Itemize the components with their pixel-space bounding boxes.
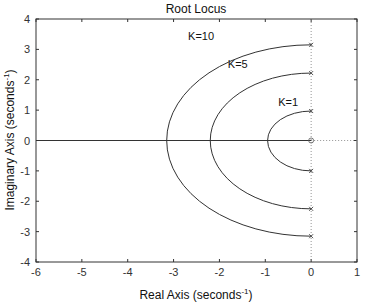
- x-tick-label: -4: [123, 266, 133, 278]
- gain-label: K=10: [188, 30, 214, 42]
- x-tick-label: -1: [260, 266, 270, 278]
- x-tick-label: 0: [308, 266, 314, 278]
- gain-label: K=5: [228, 58, 248, 70]
- x-tick-label: -6: [31, 266, 41, 278]
- axis-ticks: -6-5-4-3-2-101-4-3-2-101234: [20, 13, 360, 278]
- gain-label: K=1: [278, 96, 298, 108]
- locus-curves: K=1K=5K=10: [36, 19, 357, 262]
- y-tick-label: 0: [24, 135, 30, 147]
- x-tick-label: 1: [354, 266, 360, 278]
- x-tick-label: -5: [77, 266, 87, 278]
- y-tick-label: 1: [24, 104, 30, 116]
- y-tick-label: 4: [24, 13, 30, 25]
- root-locus-chart: Root Locus -6-5-4-3-2-101-4-3-2-101234 K…: [0, 0, 365, 304]
- x-axis-label: Real Axis (seconds-1): [139, 287, 252, 302]
- y-tick-label: -3: [20, 226, 30, 238]
- chart-title: Root Locus: [166, 2, 227, 16]
- y-tick-label: 2: [24, 74, 30, 86]
- y-tick-label: 3: [24, 43, 30, 55]
- y-tick-label: -2: [20, 195, 30, 207]
- x-tick-label: -3: [169, 266, 179, 278]
- y-tick-label: -1: [20, 165, 30, 177]
- y-axis-label: Imaginary Axis (seconds-1): [2, 69, 17, 210]
- y-tick-label: -4: [20, 256, 30, 268]
- x-tick-label: -2: [215, 266, 225, 278]
